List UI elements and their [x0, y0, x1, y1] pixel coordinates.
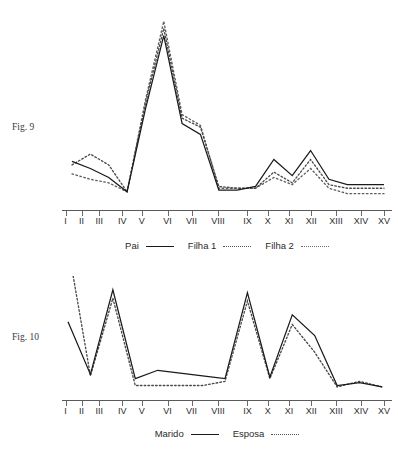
figure-10-tick-row: IIIIIIIVVVIVIIVIIIIXXXIXIIXIIIXIVXV — [62, 401, 392, 419]
axis-tick-label: V — [139, 406, 145, 416]
axis-tick-label: VII — [186, 216, 197, 226]
axis-tick-label: V — [139, 216, 145, 226]
axis-tick-label: XI — [285, 216, 294, 226]
axis-tick-label: IV — [118, 216, 127, 226]
axis-tick-label: III — [95, 406, 103, 416]
figure-9-legend: Pai Filha 1 Filha 2 — [62, 240, 392, 251]
figure-9-tick-row: IIIIIIIVVVIVIIVIIIIXXXIXIIXIIIXIVXV — [62, 211, 392, 229]
axis-tick-label: XI — [285, 406, 294, 416]
figure-9: Fig. 9 IIIIIIIVVVIVIIVIIIIXXXIXIIXIIIXIV… — [0, 14, 398, 262]
legend-entry-marido: Marido — [155, 428, 219, 439]
figure-10-legend: Marido Esposa — [62, 428, 392, 439]
figure-9-caption: Fig. 9 — [12, 122, 34, 132]
legend-swatch-solid-icon — [146, 242, 174, 250]
axis-tick-label: IX — [243, 406, 252, 416]
legend-label-pai: Pai — [125, 240, 139, 251]
axis-tick-label: II — [79, 216, 84, 226]
axis-tick-label: VI — [163, 216, 172, 226]
legend-label-marido: Marido — [155, 428, 184, 439]
axis-tick-label: X — [265, 216, 271, 226]
clipped-header-strip — [0, 0, 398, 10]
figure-9-plot-area — [62, 14, 392, 208]
axis-tick-label: I — [64, 216, 67, 226]
axis-tick-label: IX — [243, 216, 252, 226]
legend-label-filha-2: Filha 2 — [265, 240, 294, 251]
legend-swatch-dotted2-icon — [301, 242, 329, 250]
legend-entry-pai: Pai — [125, 240, 174, 251]
series-filha-1-line — [72, 28, 384, 191]
series-filha-2-line — [72, 21, 384, 193]
legend-entry-filha-2: Filha 2 — [265, 240, 329, 251]
axis-tick-label: II — [79, 406, 84, 416]
axis-tick-label: XII — [306, 406, 317, 416]
axis-tick-label: VII — [186, 406, 197, 416]
legend-swatch-solid-icon — [191, 430, 219, 438]
figure-10-chart — [62, 276, 392, 398]
axis-tick-label: IV — [118, 406, 127, 416]
figure-9-x-axis: IIIIIIIVVVIVIIVIIIIXXXIXIIXIIIXIVXV — [62, 210, 392, 229]
legend-label-filha-1: Filha 1 — [188, 240, 217, 251]
figure-10: Fig. 10 IIIIIIIVVVIVIIVIIIIXXXIXIIXIIIXI… — [0, 276, 398, 454]
figure-10-x-axis: IIIIIIIVVVIVIIVIIIIXXXIXIIXIIIXIVXV — [62, 400, 392, 419]
axis-tick-label: XII — [306, 216, 317, 226]
figure-10-plot-area — [62, 276, 392, 398]
figure-10-caption: Fig. 10 — [12, 332, 39, 342]
legend-entry-esposa: Esposa — [233, 428, 300, 439]
axis-tick-label: VIII — [211, 406, 225, 416]
axis-tick-label: VIII — [211, 216, 225, 226]
axis-tick-label: XIV — [354, 216, 369, 226]
axis-tick-label: I — [64, 406, 67, 416]
series-marido-line — [68, 290, 382, 387]
axis-tick-label: XIV — [354, 406, 369, 416]
axis-tick-label: XV — [378, 216, 390, 226]
axis-tick-label: XIII — [329, 406, 343, 416]
axis-tick-label: III — [95, 216, 103, 226]
axis-tick-label: XIII — [329, 216, 343, 226]
axis-tick-label: XV — [378, 406, 390, 416]
figure-9-chart — [62, 14, 392, 208]
series-esposa-line — [68, 276, 382, 387]
axis-tick-label: X — [265, 406, 271, 416]
series-pai-line — [72, 36, 384, 192]
figure-page: Fig. 9 IIIIIIIVVVIVIIVIIIIXXXIXIIXIIIXIV… — [0, 0, 398, 454]
legend-label-esposa: Esposa — [233, 428, 265, 439]
legend-swatch-dotted-icon — [271, 430, 299, 438]
legend-entry-filha-1: Filha 1 — [188, 240, 252, 251]
axis-tick-label: VI — [163, 406, 172, 416]
legend-swatch-dotted-icon — [223, 242, 251, 250]
